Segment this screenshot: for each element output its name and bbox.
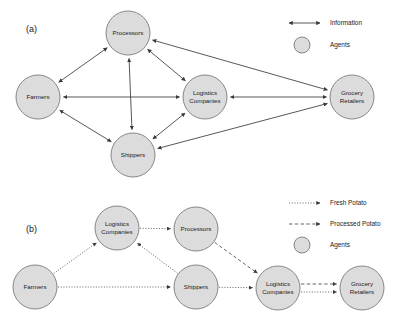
node-label: Processors [181, 225, 212, 232]
node-b-logistics-1[interactable]: LogisticsCompanies [95, 206, 139, 250]
node-b-grocery[interactable]: GroceryRetailers [340, 266, 384, 310]
legend-label: Information [330, 19, 362, 26]
figure-canvas: ProcessorsFarmersLogisticsCompaniesGroce… [0, 0, 400, 326]
node-label-line1: Grocery [351, 280, 374, 287]
node-label-line2: Companies [262, 288, 293, 295]
node-label-line1: Logistics [266, 280, 290, 287]
node-a-logistics[interactable]: LogisticsCompanies [183, 75, 227, 119]
edge-b-farmers-to-b-logistics-1 [54, 243, 97, 274]
legend-item-a-legend-information: Information [289, 19, 362, 26]
panel-label-a: (a) [26, 24, 37, 34]
node-label-line2: Companies [189, 97, 220, 104]
edge-a-farmers-to-a-shippers [60, 110, 111, 141]
node-a-processors[interactable]: Processors [106, 11, 150, 55]
legend-label: Processed Potato [330, 220, 381, 227]
node-label: Farmers [23, 283, 46, 290]
edge-a-processors-to-a-logistics [148, 49, 186, 80]
node-a-shippers[interactable]: Shippers [111, 133, 155, 177]
legend-agents-circle [294, 37, 310, 53]
node-label-line1: Logistics [105, 220, 129, 227]
edge-a-farmers-to-a-processors [59, 48, 107, 82]
supply-chain-diagram: ProcessorsFarmersLogisticsCompaniesGroce… [0, 0, 400, 326]
legend-label: Agents [330, 241, 350, 249]
node-b-farmers[interactable]: Farmers [13, 265, 57, 309]
node-label: Shippers [121, 151, 145, 158]
nodes-layer: ProcessorsFarmersLogisticsCompaniesGroce… [13, 11, 384, 310]
legend-item-b-legend-processed: Processed Potato [289, 220, 381, 227]
legend-label: Fresh Potato [330, 199, 367, 206]
node-b-shippers[interactable]: Shippers [174, 265, 218, 309]
node-label-line1: Logistics [193, 89, 217, 96]
edge-a-logistics-to-a-shippers [153, 113, 185, 139]
legend-label: Agents [330, 41, 350, 49]
node-label-line2: Companies [101, 228, 132, 235]
node-b-processors[interactable]: Processors [174, 207, 218, 251]
node-b-logistics-2[interactable]: LogisticsCompanies [256, 266, 300, 310]
node-label-line2: Retailers [350, 288, 374, 295]
node-label-line1: Grocery [341, 89, 364, 96]
node-label: Farmers [26, 93, 49, 100]
edge-a-processors-to-a-shippers [129, 58, 132, 129]
node-label-line2: Retailers [340, 97, 364, 104]
legend-item-b-legend-agents: Agents [294, 237, 350, 253]
edge-b-shippers-to-b-logistics-1 [137, 243, 177, 273]
legend-item-a-legend-agents: Agents [294, 37, 350, 53]
node-a-farmers[interactable]: Farmers [16, 75, 60, 119]
legend-agents-circle [294, 237, 310, 253]
edge-a-shippers-to-a-grocery [158, 104, 328, 149]
node-a-grocery[interactable]: GroceryRetailers [330, 75, 374, 119]
legend-layer: InformationAgentsFresh PotatoProcessed P… [289, 19, 381, 253]
legend-item-b-legend-fresh: Fresh Potato [289, 199, 367, 206]
node-label: Processors [113, 29, 144, 36]
edge-b-processors-to-b-logistics-2 [215, 242, 258, 273]
panel-label-b: (b) [26, 224, 37, 234]
node-label: Shippers [184, 283, 208, 290]
